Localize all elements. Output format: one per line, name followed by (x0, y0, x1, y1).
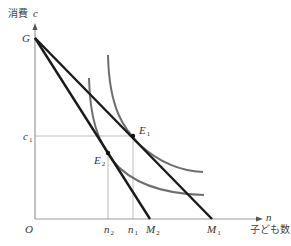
n1-sub: 1 (135, 229, 139, 237)
n1-tick-label: n1 (128, 224, 138, 237)
point-E1-label: E1 (139, 125, 150, 138)
indifference-curve-outer (108, 55, 203, 172)
M1-sub: 1 (217, 229, 221, 237)
E2-sub: 2 (102, 160, 106, 168)
c1-tick-label: c1 (23, 131, 32, 144)
origin-label: O (25, 224, 33, 235)
x-axis-label: 子ども数 (250, 225, 290, 235)
M2-main: M (146, 223, 155, 235)
c1-main: c (23, 130, 28, 142)
point-E2-label: E2 (94, 155, 105, 168)
budget-line-G-M1 (35, 38, 212, 219)
M2-sub: 2 (156, 229, 160, 237)
n2-main: n (104, 223, 110, 235)
y-axis-arrow-icon (33, 23, 38, 30)
M2-tick-label: M2 (146, 224, 160, 237)
y-axis-label: 消費 (8, 9, 28, 19)
M1-tick-label: M1 (207, 224, 221, 237)
intercept-G-label: G (22, 33, 30, 44)
c1-sub: 1 (29, 136, 33, 144)
n2-tick-label: n2 (104, 224, 114, 237)
n2-sub: 2 (111, 229, 115, 237)
point-E1-marker (131, 134, 135, 138)
consumption-children-diagram: 消費 c G c1 E1 E2 O n2 n1 M2 M1 n 子ども数 (0, 0, 291, 246)
point-E2-marker (106, 151, 110, 155)
E2-main: E (94, 154, 101, 166)
M1-main: M (207, 223, 216, 235)
E1-main: E (139, 124, 146, 136)
diagram-canvas (0, 0, 291, 246)
x-axis-symbol: n (266, 212, 272, 223)
E1-sub: 1 (147, 130, 151, 138)
n1-main: n (128, 223, 134, 235)
x-axis-arrow-icon (256, 217, 263, 222)
budget-line-G-M2 (35, 38, 150, 219)
y-axis-symbol: c (33, 8, 38, 19)
